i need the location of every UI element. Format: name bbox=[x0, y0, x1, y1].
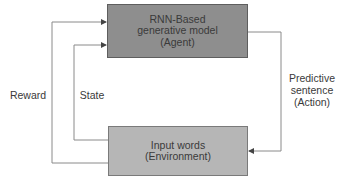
rl-diagram: RNN-Based generative model (Agent) Input… bbox=[0, 0, 342, 185]
action-label-line-2: sentence bbox=[283, 84, 341, 96]
reward-label: Reward bbox=[8, 89, 48, 101]
agent-node-line-3: (Agent) bbox=[160, 37, 194, 49]
action-arrow bbox=[248, 32, 281, 151]
action-label: Predictive sentence (Action) bbox=[283, 72, 341, 108]
agent-node: RNN-Based generative model (Agent) bbox=[107, 4, 248, 58]
action-label-line-1: Predictive bbox=[283, 72, 341, 84]
environment-node-line-2: (Environment) bbox=[145, 151, 211, 163]
environment-node: Input words (Environment) bbox=[108, 126, 248, 176]
state-label: State bbox=[77, 89, 107, 101]
action-label-line-3: (Action) bbox=[283, 96, 341, 108]
